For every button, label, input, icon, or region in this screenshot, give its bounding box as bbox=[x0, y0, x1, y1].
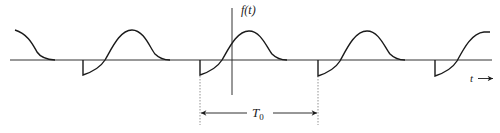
waveform-period-4 bbox=[435, 32, 490, 76]
waveform-tail-left bbox=[15, 30, 55, 60]
waveform-period-2 bbox=[200, 31, 287, 75]
x-axis-label: t bbox=[470, 72, 474, 84]
periodic-signal-diagram: T0 f(t) t bbox=[0, 0, 500, 133]
waveform-periods bbox=[83, 30, 490, 76]
period-subscript: 0 bbox=[259, 112, 264, 122]
waveform-period-1 bbox=[83, 30, 170, 75]
y-axis-label: f(t) bbox=[241, 3, 256, 17]
period-label: T0 bbox=[252, 105, 264, 122]
waveform-period-3 bbox=[318, 31, 405, 76]
